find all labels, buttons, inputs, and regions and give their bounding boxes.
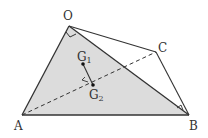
face-oab-shaded [22, 26, 189, 115]
label-a: A [13, 119, 23, 133]
point-g2 [91, 83, 95, 87]
tetrahedron-diagram: O C A B G1 G2 [0, 0, 208, 138]
label-o: O [63, 9, 73, 23]
label-b: B [189, 119, 198, 133]
label-c: C [158, 41, 167, 55]
